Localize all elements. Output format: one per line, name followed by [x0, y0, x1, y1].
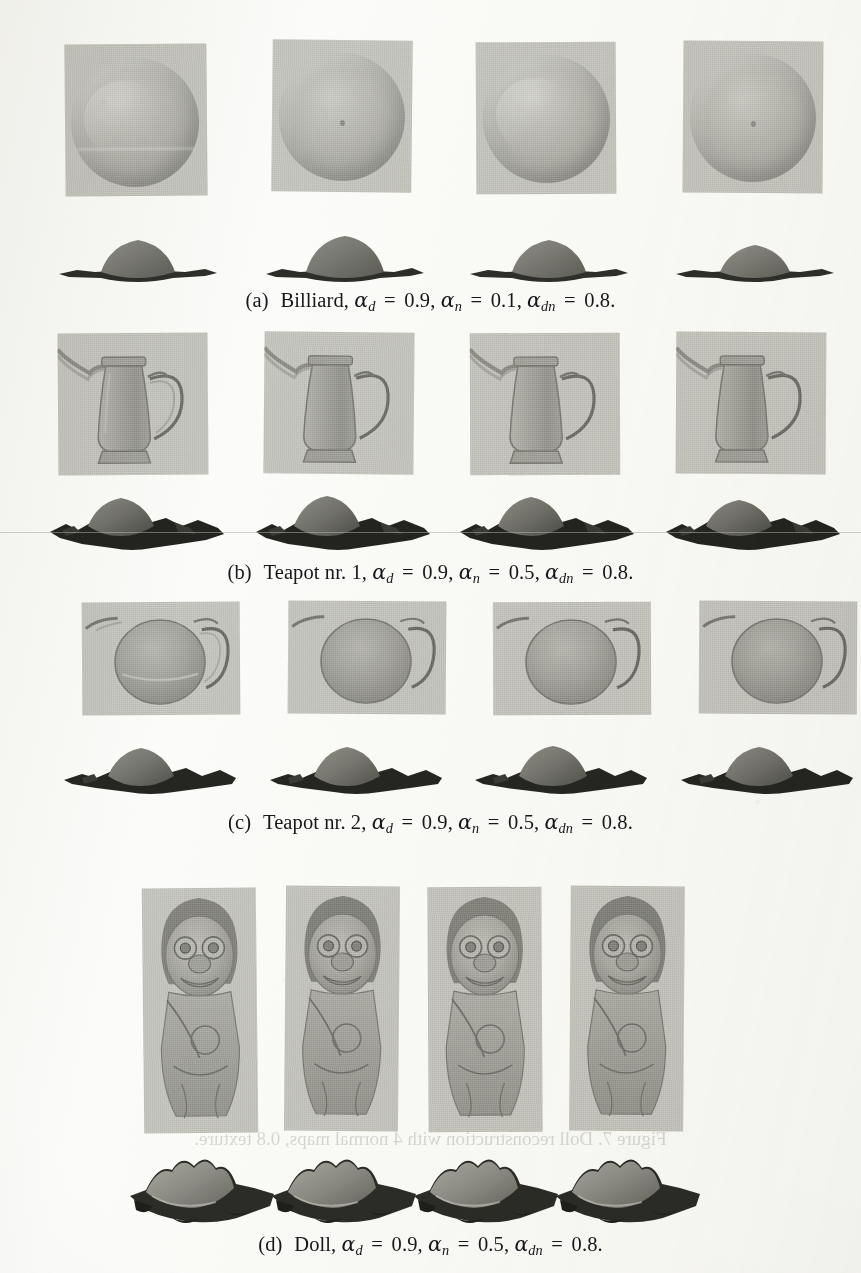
height-map-surface[interactable]: [554, 1151, 704, 1230]
alpha-symbol: α: [354, 288, 368, 312]
alpha-symbol: α: [458, 810, 472, 834]
equals-sign: =: [581, 811, 593, 833]
alpha-value: 0.9: [404, 289, 430, 311]
separator: ,: [448, 811, 453, 833]
subfigure-b: (b) Teapot nr. 1, αd=0.9, αn=0.5, αdn=0.…: [0, 320, 861, 580]
height-map-surface[interactable]: [62, 738, 238, 798]
alpha-subscript: d: [356, 1242, 363, 1258]
subfigure-a-caption: (a) Billiard, αd=0.9, αn=0.1, αdn=0.8.: [0, 288, 861, 315]
alpha-symbol: α: [514, 1232, 528, 1256]
subfigure-c-tag: (c): [228, 811, 251, 833]
equals-sign: =: [384, 289, 396, 311]
alpha-value: 0.9: [422, 811, 448, 833]
alpha-value: 0.5: [508, 811, 534, 833]
alpha-symbol: α: [545, 810, 559, 834]
height-map-surface[interactable]: [55, 228, 221, 284]
separator: ,: [504, 1233, 509, 1255]
separator: .: [598, 1233, 603, 1255]
alpha-value: 0.1: [491, 289, 517, 311]
height-map-surface[interactable]: [466, 228, 632, 284]
height-map-surface[interactable]: [672, 230, 838, 284]
subfigure-c-params: αd=0.9, αn=0.5, αdn=0.8.: [372, 811, 633, 833]
subfigure-c-object-label: Teapot nr. 2,: [263, 811, 366, 833]
alpha-value: 0.8: [602, 811, 628, 833]
height-map-surface[interactable]: [262, 226, 428, 284]
alpha-subscript: n: [442, 1242, 449, 1258]
subfigure-c: (c) Teapot nr. 2, αd=0.9, αn=0.5, αdn=0.…: [0, 580, 861, 840]
height-map-surface[interactable]: [270, 1149, 420, 1230]
alpha-value: 0.8: [572, 1233, 598, 1255]
separator: .: [628, 811, 633, 833]
alpha-subscript: n: [455, 298, 462, 314]
equals-sign: =: [488, 811, 500, 833]
height-map-surface[interactable]: [473, 738, 649, 798]
alpha-symbol: α: [372, 810, 386, 834]
height-map-surface[interactable]: [412, 1150, 562, 1230]
separator: .: [610, 289, 615, 311]
alpha-subscript: dn: [528, 1242, 542, 1258]
equals-sign: =: [470, 289, 482, 311]
separator: ,: [430, 289, 435, 311]
subfigure-b-surface-row: [0, 320, 861, 580]
height-map-surface[interactable]: [48, 492, 226, 554]
height-map-surface[interactable]: [254, 490, 432, 554]
alpha-subscript: d: [386, 820, 393, 836]
subfigure-c-caption: (c) Teapot nr. 2, αd=0.9, αn=0.5, αdn=0.…: [0, 810, 861, 837]
height-map-surface[interactable]: [664, 492, 842, 554]
equals-sign: =: [401, 811, 413, 833]
equals-sign: =: [564, 289, 576, 311]
subfigure-d-params: αd=0.9, αn=0.5, αdn=0.8.: [342, 1233, 603, 1255]
subfigure-a: (a) Billiard, αd=0.9, αn=0.1, αdn=0.8.: [0, 0, 861, 320]
subfigure-d-tag: (d): [258, 1233, 282, 1255]
height-map-surface[interactable]: [268, 737, 444, 798]
height-map-surface[interactable]: [679, 739, 855, 798]
scan-hairline: [0, 532, 861, 533]
subfigure-d: Figure 7. Doll reconstruction with 4 nor…: [0, 840, 861, 1273]
alpha-symbol: α: [441, 288, 455, 312]
height-map-surface[interactable]: [458, 491, 636, 554]
subfigure-d-surface-row: [0, 840, 861, 1273]
subfigure-a-params: αd=0.9, αn=0.1, αdn=0.8.: [354, 289, 615, 311]
subfigure-c-surface-row: [0, 580, 861, 840]
alpha-subscript: d: [368, 298, 375, 314]
alpha-value: 0.8: [584, 289, 610, 311]
alpha-value: 0.9: [392, 1233, 418, 1255]
separator: ,: [418, 1233, 423, 1255]
separator: ,: [534, 811, 539, 833]
subfigure-d-caption: (d) Doll, αd=0.9, αn=0.5, αdn=0.8.: [0, 1232, 861, 1259]
equals-sign: =: [458, 1233, 470, 1255]
alpha-subscript: n: [472, 820, 479, 836]
subfigure-d-object-label: Doll,: [294, 1233, 336, 1255]
equals-sign: =: [551, 1233, 563, 1255]
subfigure-a-surface-row: [0, 0, 861, 320]
subfigure-a-object-label: Billiard,: [280, 289, 349, 311]
equals-sign: =: [371, 1233, 383, 1255]
alpha-symbol: α: [428, 1232, 442, 1256]
separator: ,: [517, 289, 522, 311]
alpha-subscript: dn: [558, 820, 572, 836]
height-map-surface[interactable]: [128, 1150, 278, 1230]
alpha-subscript: dn: [541, 298, 555, 314]
figure-page: (a) Billiard, αd=0.9, αn=0.1, αdn=0.8.: [0, 0, 861, 1273]
alpha-value: 0.5: [478, 1233, 504, 1255]
alpha-symbol: α: [527, 288, 541, 312]
alpha-symbol: α: [342, 1232, 356, 1256]
subfigure-a-tag: (a): [246, 289, 269, 311]
